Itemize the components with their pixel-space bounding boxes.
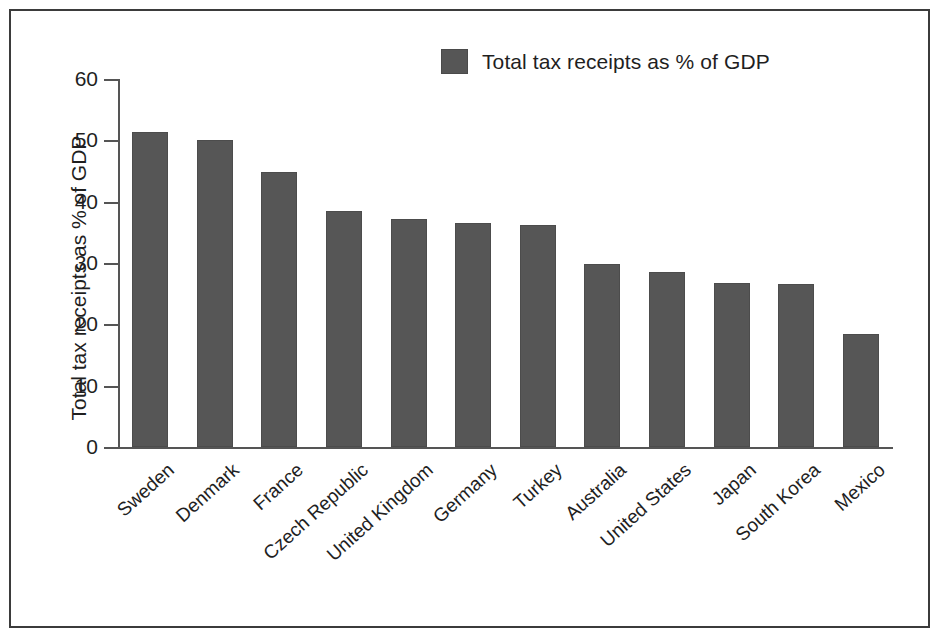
x-axis-labels: SwedenDenmarkFranceCzech RepublicUnited …	[118, 451, 893, 601]
bar-sweden	[132, 132, 168, 447]
x-axis-label-france: France	[250, 459, 309, 515]
y-axis-tick-label: 20	[75, 312, 98, 336]
legend-swatch-total-tax-receipts	[441, 49, 468, 74]
bar-mexico	[843, 334, 879, 447]
y-axis-tick	[104, 263, 118, 265]
x-axis-label-denmark: Denmark	[172, 459, 244, 527]
y-axis-tick-label: 30	[75, 251, 98, 275]
chart-legend: Total tax receipts as % of GDP	[441, 49, 770, 74]
bar-south-korea	[778, 284, 814, 447]
y-axis-tick	[104, 202, 118, 204]
x-axis-label-germany: Germany	[429, 459, 502, 528]
bar-united-kingdom	[391, 219, 427, 447]
y-axis-tick	[104, 447, 118, 449]
y-axis-tick	[104, 386, 118, 388]
bar-turkey	[520, 225, 556, 447]
bar-france	[261, 172, 297, 447]
bar-czech-republic	[326, 211, 362, 447]
plot-area	[118, 79, 893, 447]
legend-label-total-tax-receipts: Total tax receipts as % of GDP	[482, 50, 770, 74]
y-axis-tick-label: 50	[75, 128, 98, 152]
y-axis-tick-label: 40	[75, 190, 98, 214]
x-axis-label-japan: Japan	[707, 459, 760, 510]
y-axis-tick-label: 10	[75, 374, 98, 398]
y-axis-tick	[104, 324, 118, 326]
y-axis-tick	[104, 79, 118, 81]
x-axis-label-turkey: Turkey	[509, 459, 566, 514]
y-axis-tick-label: 0	[86, 435, 98, 459]
y-axis-tick-label: 60	[75, 67, 98, 91]
x-axis-line	[118, 447, 893, 449]
bar-australia	[584, 264, 620, 447]
x-axis-label-sweden: Sweden	[113, 459, 179, 521]
chart-figure-frame: Total tax receipts as % of GDP Total tax…	[9, 9, 930, 628]
x-axis-label-mexico: Mexico	[830, 459, 889, 516]
bar-germany	[455, 223, 491, 447]
bar-japan	[714, 283, 750, 447]
bar-united-states	[649, 272, 685, 447]
y-axis-tick	[104, 140, 118, 142]
bar-denmark	[197, 140, 233, 447]
